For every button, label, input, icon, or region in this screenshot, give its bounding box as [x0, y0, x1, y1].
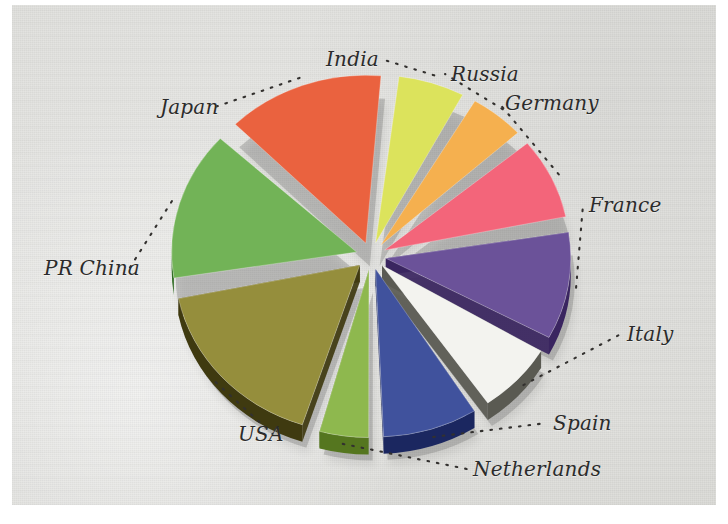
- chart-page: IndiaRussiaGermanyFranceItalySpainNether…: [0, 0, 728, 524]
- pie-label-usa: USA: [238, 422, 284, 446]
- leader-line: [381, 59, 434, 75]
- pie-label-germany: Germany: [505, 91, 599, 115]
- pie-label-spain: Spain: [553, 411, 612, 435]
- pie-label-france: France: [589, 193, 661, 217]
- pie-label-india: India: [326, 47, 379, 71]
- pie-label-russia: Russia: [451, 62, 519, 86]
- leader-line: [576, 205, 583, 288]
- pie-label-japan: Japan: [160, 95, 219, 119]
- pie-label-pr-china: PR China: [44, 256, 140, 280]
- pie-label-italy: Italy: [627, 322, 674, 346]
- pie-chart: IndiaRussiaGermanyFranceItalySpainNether…: [0, 0, 728, 524]
- pie-label-netherlands: Netherlands: [473, 457, 601, 481]
